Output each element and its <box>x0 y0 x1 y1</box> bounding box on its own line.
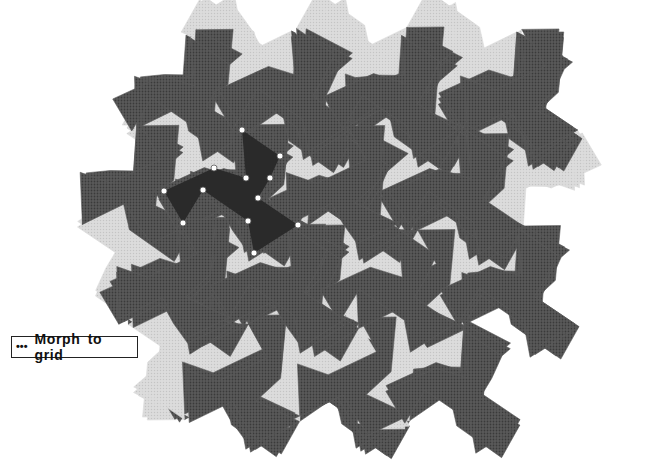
control-point-handle[interactable] <box>277 153 283 159</box>
control-point-handle[interactable] <box>239 127 245 133</box>
dots-icon: ••• <box>16 340 28 352</box>
control-point-handle[interactable] <box>295 222 301 228</box>
control-point-handle[interactable] <box>200 187 206 193</box>
control-point-handle[interactable] <box>180 220 186 226</box>
control-point-handle[interactable] <box>243 175 249 181</box>
control-point-handle[interactable] <box>245 218 251 224</box>
control-point-handle[interactable] <box>211 165 217 171</box>
control-point-handle[interactable] <box>267 175 273 181</box>
morph-to-grid-label: Morph to grid <box>35 331 137 363</box>
control-point-handle[interactable] <box>251 250 257 256</box>
tessellation-canvas[interactable] <box>0 0 651 466</box>
control-point-handle[interactable] <box>255 195 261 201</box>
tile-layer <box>77 0 601 459</box>
control-point-handle[interactable] <box>161 188 167 194</box>
morph-to-grid-button[interactable]: ••• Morph to grid <box>11 336 138 358</box>
